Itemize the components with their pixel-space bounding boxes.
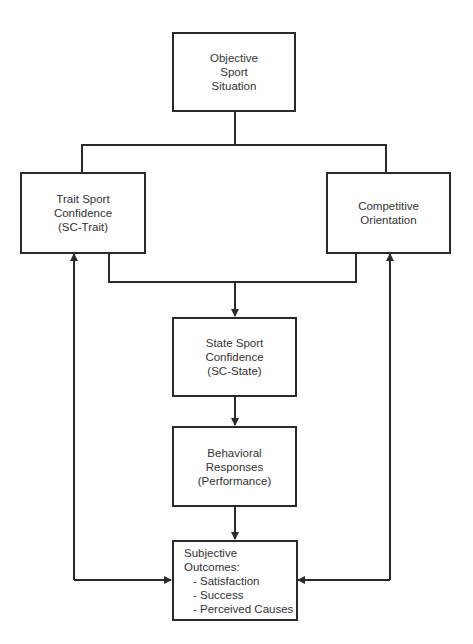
outcome-item-perceived-causes: - Perceived Causes: [184, 602, 293, 616]
sport-confidence-model-diagram: Objective Sport Situation Trait Sport Co…: [0, 0, 473, 644]
node-behavioral-responses: Behavioral Responses (Performance): [172, 426, 297, 507]
node-label-line: Situation: [212, 79, 257, 93]
node-label-line: Subjective: [184, 546, 237, 560]
node-subjective-outcomes: Subjective Outcomes: - Satisfaction - Su…: [172, 540, 298, 621]
node-label-line: Behavioral: [207, 446, 261, 460]
node-label-line: (Performance): [198, 474, 272, 488]
edge-competitive-to-merge: [235, 253, 356, 282]
node-label-line: (SC-State): [207, 364, 261, 378]
node-label-line: (SC-Trait): [58, 220, 108, 234]
outcome-item-success: - Success: [184, 588, 244, 602]
node-label-line: Objective: [210, 51, 258, 65]
node-label-line: Trait Sport: [56, 192, 109, 206]
outcome-item-satisfaction: - Satisfaction: [184, 574, 259, 588]
node-label-line: Outcomes:: [184, 560, 240, 574]
node-label-line: State Sport: [206, 336, 264, 350]
node-label-line: Confidence: [54, 206, 112, 220]
node-label-line: Competitive: [358, 199, 419, 213]
edge-objective-to-trait: [82, 145, 235, 172]
node-objective-sport-situation: Objective Sport Situation: [172, 32, 296, 112]
edge-trait-to-merge: [109, 253, 235, 282]
node-label-line: Orientation: [360, 213, 416, 227]
node-trait-sport-confidence: Trait Sport Confidence (SC-Trait): [20, 172, 146, 254]
node-competitive-orientation: Competitive Orientation: [326, 172, 451, 254]
node-label-line: Confidence: [205, 350, 263, 364]
node-label-line: Responses: [206, 460, 264, 474]
node-state-sport-confidence: State Sport Confidence (SC-State): [172, 317, 297, 397]
edge-objective-to-competitive: [235, 145, 386, 172]
node-label-line: Sport: [220, 65, 248, 79]
